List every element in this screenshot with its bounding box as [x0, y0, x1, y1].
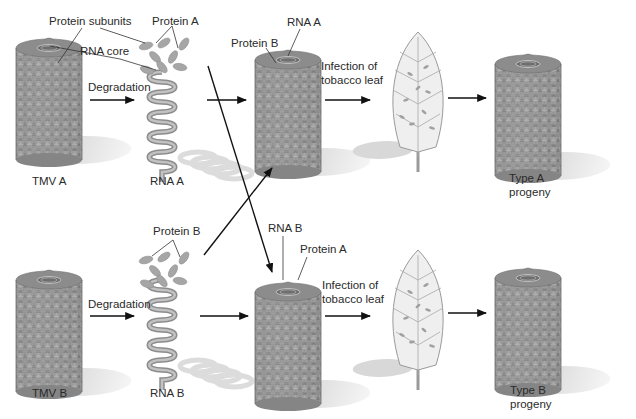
protein-b-subunits — [138, 250, 191, 290]
protein-b-label-bottom: Protein B — [153, 225, 200, 238]
hybrid-rna-a-label: RNA A — [287, 16, 321, 29]
tmv-a-label: TMV A — [32, 175, 67, 188]
tmv-b-virus — [16, 270, 136, 399]
infection-label-bottom-1: Infection of — [322, 279, 378, 292]
type-b-progeny-label-2: progeny — [510, 398, 552, 411]
hybrid-protein-b-label: Protein B — [231, 37, 278, 50]
infection-label-bottom-2: tobacco leaf — [322, 293, 384, 306]
infection-label-top-1: Infection of — [321, 60, 377, 73]
rna-core-label: RNA core — [80, 45, 129, 58]
type-a-progeny-label-1: Type A — [509, 172, 544, 185]
degradation-label-bottom: Degradation — [88, 298, 151, 311]
rna-a-coil — [149, 72, 252, 182]
type-a-progeny-label-2: progeny — [509, 186, 551, 199]
tobacco-leaf-bottom — [349, 250, 443, 390]
rna-b-coil — [149, 280, 252, 390]
tmv-experiment-diagram — [0, 0, 636, 419]
type-b-progeny-virus — [495, 268, 615, 397]
infection-label-top-2: tobacco leaf — [321, 74, 383, 87]
protein-a-subunits — [138, 36, 191, 76]
hybrid-protein-a-label: Protein A — [300, 243, 347, 256]
protein-a-label-top: Protein A — [152, 15, 199, 28]
degradation-label-top: Degradation — [88, 81, 151, 94]
rna-b-label: RNA B — [150, 387, 185, 400]
rna-a-label: RNA A — [150, 175, 184, 188]
tmv-b-label: TMV B — [32, 387, 67, 400]
type-a-progeny-virus — [495, 54, 615, 183]
protein-subunits-label: Protein subunits — [49, 15, 131, 28]
type-b-progeny-label-1: Type B — [510, 384, 546, 397]
tobacco-leaf-top — [349, 32, 443, 172]
hybrid-rna-b-label: RNA B — [268, 222, 303, 235]
